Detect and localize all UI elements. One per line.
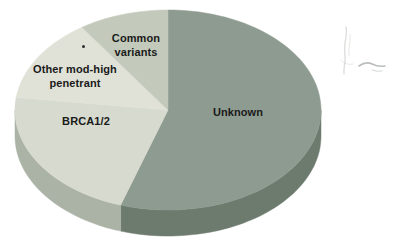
smudge-artifact [0,0,403,244]
figure-canvas: Common variants Other mod-high penetrant… [0,0,403,244]
